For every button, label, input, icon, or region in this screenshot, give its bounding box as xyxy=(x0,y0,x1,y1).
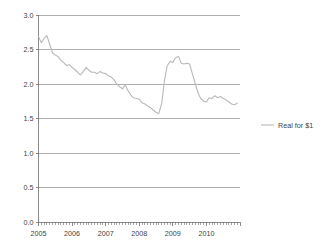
y-axis xyxy=(36,15,39,222)
data-series xyxy=(39,36,238,114)
chart-legend: Real for $1 xyxy=(261,121,313,130)
x-axis xyxy=(39,222,241,226)
y-tick-label: 1.0 xyxy=(24,149,34,158)
y-tick-label: 2.0 xyxy=(24,80,34,89)
x-tick-label: 2005 xyxy=(31,229,47,238)
line-chart: 0.00.51.01.52.02.53.0 200520062007200820… xyxy=(0,0,325,250)
x-tick-label: 2010 xyxy=(198,229,214,238)
x-tick-label: 2006 xyxy=(64,229,80,238)
y-tick-label: 1.5 xyxy=(24,114,34,123)
gridlines xyxy=(39,15,241,188)
y-tick-label: 2.5 xyxy=(24,45,34,54)
y-tick-label: 0.5 xyxy=(24,183,34,192)
y-tick-label: 3.0 xyxy=(24,11,34,20)
y-tick-labels: 0.00.51.01.52.02.53.0 xyxy=(24,11,34,227)
x-tick-label: 2008 xyxy=(131,229,147,238)
series-line-0 xyxy=(39,36,238,114)
legend-label-0: Real for $1 xyxy=(278,121,313,130)
y-tick-label: 0.0 xyxy=(24,218,34,227)
x-tick-label: 2009 xyxy=(165,229,181,238)
chart-container: 0.00.51.01.52.02.53.0 200520062007200820… xyxy=(0,0,325,250)
x-tick-labels: 200520062007200820092010 xyxy=(31,229,215,238)
x-tick-label: 2007 xyxy=(98,229,114,238)
